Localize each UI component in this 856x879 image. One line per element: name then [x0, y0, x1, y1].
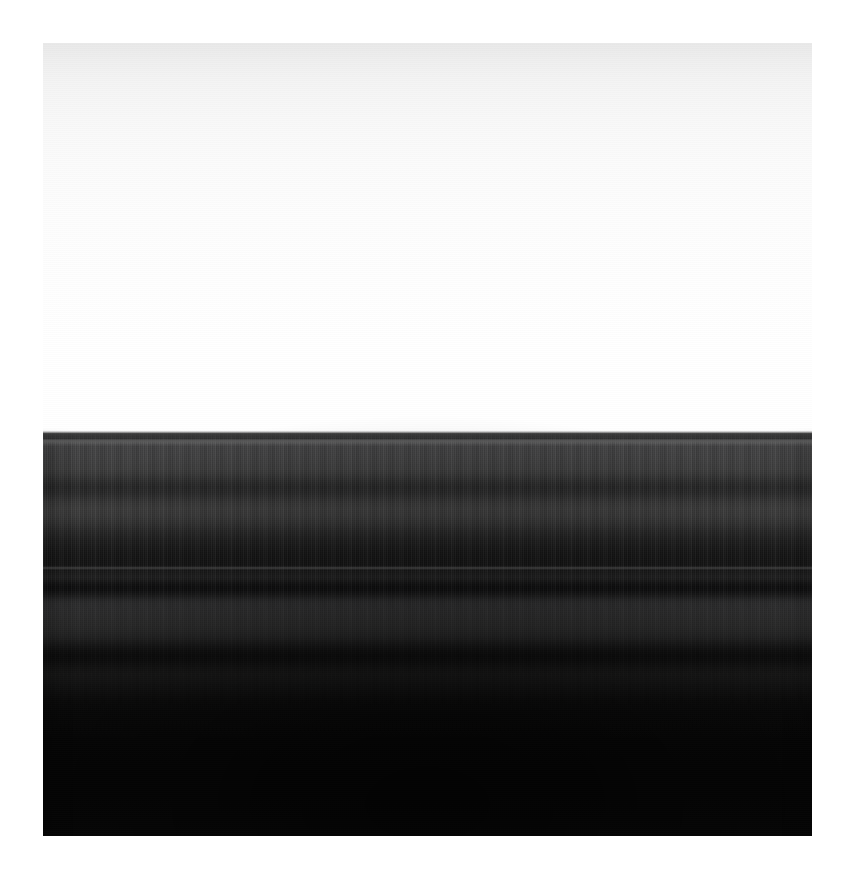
image-viewport: Horizontal banded structure beneath a br… — [0, 0, 856, 879]
vertical-mottle-texture — [43, 43, 812, 836]
photographic-plate — [43, 43, 812, 836]
colour-cast-layer — [43, 43, 812, 836]
tonal-gradient-layer — [43, 43, 812, 836]
vignette-layer — [43, 43, 812, 836]
edge-falloff-layer — [43, 43, 812, 836]
vertical-striation-texture — [43, 43, 812, 836]
horizontal-scanline-texture — [43, 43, 812, 836]
trough-filament-hairline — [43, 566, 812, 570]
bright-ridge-hairline — [43, 439, 812, 443]
